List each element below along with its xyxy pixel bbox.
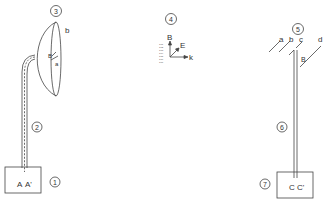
base-box-c (277, 172, 313, 198)
axis-label-k: k (189, 53, 194, 62)
base-box-a (5, 167, 41, 193)
axes-legend: 101 102 103 104 105 106 107 (159, 43, 164, 64)
box-label-a: A (17, 180, 23, 189)
waveguide-center (25, 57, 36, 172)
dish-label-b: b (65, 26, 70, 35)
element-label-c: c (299, 35, 303, 44)
antenna-diagram: 3 2 1 b a B A A' 4 B E k 101 102 103 104… (0, 0, 332, 202)
dish-label-feed: B (48, 53, 52, 59)
legend-line: 107 (159, 61, 164, 64)
box-label-c-prime: C' (297, 183, 305, 192)
waveguide-outer (22, 55, 35, 168)
axis-label-b: B (167, 33, 172, 42)
waveguide-inner (27, 59, 35, 168)
feed-label-b: B (301, 56, 306, 63)
element-label-a: a (279, 35, 284, 44)
k-arrowhead (184, 56, 188, 59)
callout-3-label: 3 (54, 8, 58, 15)
element-c-lower (289, 50, 294, 55)
callout-7-label: 7 (263, 181, 267, 188)
callout-2-label: 2 (35, 124, 39, 131)
box-label-a-prime: A' (25, 180, 32, 189)
callout-6-label: 6 (280, 124, 284, 131)
box-label-c: C (289, 183, 295, 192)
element-label-d: d (318, 35, 322, 44)
dish-label-a: a (55, 61, 59, 67)
axis-label-e: E (180, 41, 185, 50)
callout-5-label: 5 (296, 26, 300, 33)
element-label-b: b (289, 35, 294, 44)
dish-feed (51, 52, 58, 60)
right-assembly-text: 5 6 7 a b c d B C C' (263, 26, 322, 193)
callout-4-label: 4 (169, 16, 173, 23)
left-assembly (5, 6, 62, 194)
right-assembly (260, 24, 321, 199)
callout-1-label: 1 (53, 179, 57, 186)
